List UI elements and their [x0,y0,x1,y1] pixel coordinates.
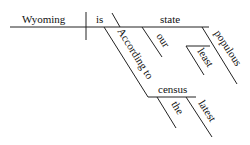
word-latest: latest [196,98,218,124]
word-verb: is [96,13,103,25]
word-preposition: According to [115,26,156,82]
sentence-diagram: Wyoming is state our populous least Acco… [0,0,250,145]
word-our: our [154,31,172,50]
word-object: census [158,83,187,95]
word-complement: state [160,13,180,25]
complement-divider [112,13,120,27]
word-the: the [169,99,186,117]
word-subject: Wyoming [22,13,66,25]
